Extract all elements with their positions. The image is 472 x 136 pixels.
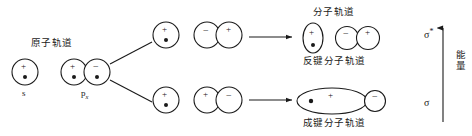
sign-lower-pair-left: + <box>203 90 208 99</box>
sign-atomic-s: + <box>21 62 26 71</box>
sign-bonding-major: + <box>328 91 333 100</box>
molecular-orbital-title: 分子轨道 <box>313 7 355 17</box>
sign-antibonding-major: + <box>309 28 314 37</box>
atomic-orbital-s-label: s <box>22 89 26 98</box>
sign-antibonding-pair-right: + <box>365 28 370 37</box>
sign-upper-pair-right: + <box>226 25 231 34</box>
sigma-star-label: σ* <box>424 28 433 40</box>
sign-antibonding-pair-left: − <box>343 29 349 39</box>
connector-lines <box>110 42 152 102</box>
sigma-star-superscript: * <box>429 27 433 36</box>
energy-axis-label: 能量 <box>455 50 465 72</box>
orbital-overlap-diagram: + + − + − + + + − + − + + − 原子轨道 分子轨道 反键… <box>0 0 472 136</box>
sign-atomic-p-positive: + <box>70 62 75 71</box>
sigma-label: σ <box>424 98 429 108</box>
atomic-orbital-title: 原子轨道 <box>31 38 73 48</box>
sign-upper-pair-left: − <box>203 26 209 36</box>
sign-upper-single: + <box>162 25 167 34</box>
bonding-mo-caption: 成键分子轨道 <box>303 118 365 128</box>
middle-lower-pair-shape <box>194 87 242 113</box>
sign-lower-pair-right: − <box>226 91 232 101</box>
px-subscript: x <box>86 93 89 100</box>
atomic-orbital-px-label: px <box>81 89 88 100</box>
middle-upper-pair-shape <box>194 22 242 48</box>
atomic-orbital-px-shape <box>61 59 110 85</box>
sign-bonding-minor: − <box>372 92 378 102</box>
sign-lower-single: + <box>162 90 167 99</box>
antibonding-mo-caption: 反键分子轨道 <box>303 56 365 66</box>
sign-atomic-p-negative: − <box>93 62 99 72</box>
